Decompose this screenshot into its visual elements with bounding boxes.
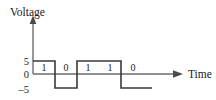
bit-label-2: 1: [86, 62, 91, 73]
bit-label-1: 0: [64, 62, 69, 73]
bit-label-0: 1: [42, 62, 47, 73]
y-axis-title: Voltage: [10, 6, 45, 19]
x-axis-arrowhead-icon: [173, 70, 183, 78]
waveform-figure: Voltage Time 5 0 –5 1 0 1 1 0: [0, 0, 216, 100]
y-tick-label-5: 5: [24, 56, 29, 67]
y-tick-label-minus-5: –5: [18, 84, 30, 95]
y-tick-label-0: 0: [24, 69, 29, 80]
waveform-svg: Voltage Time 5 0 –5 1 0 1 1 0: [0, 0, 216, 100]
y-axis: [30, 16, 37, 75]
bit-label-3: 1: [108, 62, 113, 73]
x-axis-title: Time: [188, 68, 212, 80]
bit-label-4: 0: [131, 62, 136, 73]
